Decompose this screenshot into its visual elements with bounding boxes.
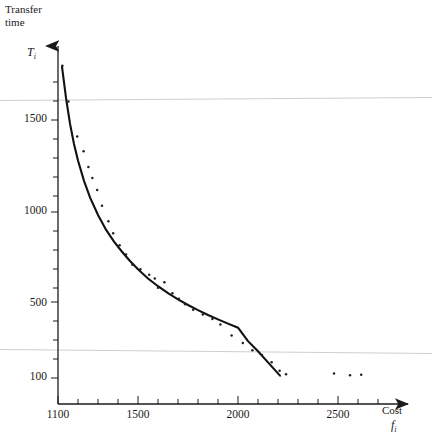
data-point [261, 354, 264, 357]
data-point [251, 349, 254, 352]
data-point [270, 361, 273, 364]
data-point [112, 232, 115, 235]
data-point [242, 342, 245, 345]
data-point [360, 373, 363, 376]
y-tick-label: 100 [5, 370, 47, 382]
data-point [154, 277, 157, 280]
scatter-plot-canvas [0, 0, 432, 436]
data-point [333, 372, 336, 375]
data-point [131, 263, 134, 266]
y-axis-variable-symbol: T [27, 45, 34, 59]
x-axis-title: Cost [382, 404, 402, 417]
y-tick-label: 1500 [5, 112, 47, 124]
scan-artifact-lines [0, 98, 432, 354]
y-axis-variable: Ti [27, 45, 36, 61]
data-point [96, 189, 99, 192]
data-point [285, 373, 288, 376]
data-point [101, 204, 104, 207]
fitted-curve-path [62, 67, 280, 376]
data-point [211, 318, 214, 321]
fitted-curve [62, 67, 280, 376]
data-point [278, 369, 281, 372]
data-point [184, 303, 187, 306]
x-tick-label: 1500 [116, 408, 160, 420]
data-point [107, 220, 110, 223]
data-point [192, 309, 195, 312]
y-axis-title: Transfertime [5, 3, 42, 29]
data-point [219, 323, 222, 326]
data-point [61, 64, 64, 67]
y-tick-label: 500 [5, 296, 47, 308]
y-axis-ticks [51, 82, 58, 378]
data-point [125, 253, 128, 256]
y-tick-label: 1000 [5, 204, 47, 216]
data-point [230, 334, 233, 337]
x-axis-variable-subscript: i [394, 425, 396, 434]
data-point [118, 244, 121, 247]
data-point [171, 292, 174, 295]
data-point [163, 281, 166, 284]
x-tick-label: 2500 [316, 408, 360, 420]
x-axis-ticks [58, 396, 378, 404]
data-point [91, 177, 94, 180]
x-axis-variable: fi [391, 418, 397, 434]
data-point [139, 268, 142, 271]
data-point [82, 150, 85, 153]
y-axis-title-line2: time [5, 16, 25, 28]
y-axis-variable-subscript: i [34, 52, 36, 61]
data-point [157, 286, 160, 289]
x-axis-title-text: Cost [382, 404, 402, 416]
data-point [67, 100, 70, 103]
x-tick-label: 2000 [216, 408, 260, 420]
data-point [178, 298, 181, 301]
data-point [148, 274, 151, 277]
data-point [76, 135, 79, 138]
data-point [349, 374, 352, 377]
data-points [61, 64, 362, 376]
data-point [87, 166, 90, 169]
x-tick-label: 1100 [36, 408, 80, 420]
y-axis-title-line1: Transfer [5, 3, 42, 15]
chart-container: Transfertime Ti Cost fi 15001000500100 1… [0, 0, 432, 436]
x-axis [58, 396, 408, 404]
data-point [202, 313, 205, 316]
